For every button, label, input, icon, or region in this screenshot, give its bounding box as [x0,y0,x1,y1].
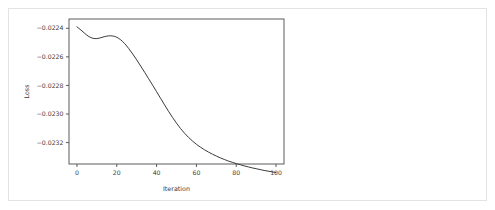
x-tick-label: 20 [113,169,121,176]
x-tick-label: 60 [192,169,200,176]
y-axis-ticks: −0.0224−0.0226−0.0228−0.0230−0.0232 [37,24,69,145]
x-tick-label: 40 [153,169,161,176]
x-tick-label: 0 [75,169,79,176]
y-tick-label: −0.0230 [37,110,64,117]
x-axis-ticks: 020406080100 [75,164,282,176]
y-tick-label: −0.0232 [37,139,64,146]
axes-frame [69,19,284,164]
screenshot-root: −0.0224−0.0226−0.0228−0.0230−0.0232 0204… [0,0,495,210]
y-tick-label: −0.0228 [37,82,64,89]
y-axis-title: Loss [23,84,31,99]
figure-output-card: −0.0224−0.0226−0.0228−0.0230−0.0232 0204… [8,8,487,201]
y-tick-label: −0.0226 [37,53,64,60]
loss-line-chart: −0.0224−0.0226−0.0228−0.0230−0.0232 0204… [9,9,319,202]
y-tick-label: −0.0224 [37,24,64,31]
x-axis-title: Iteration [163,185,190,193]
x-tick-label: 80 [232,169,240,176]
loss-series-line [77,27,276,173]
matplotlib-figure: −0.0224−0.0226−0.0228−0.0230−0.0232 0204… [9,9,319,202]
